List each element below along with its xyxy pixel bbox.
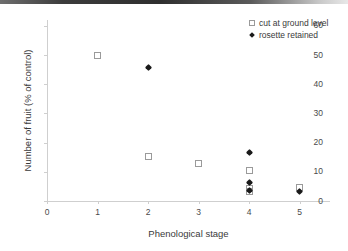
x-tick-label: 3 xyxy=(189,208,209,217)
y-tick-label: 20 xyxy=(314,138,323,147)
y-tick-label: 0 xyxy=(318,197,323,206)
x-tick-label: 4 xyxy=(239,208,259,217)
y-tick-mark xyxy=(44,143,47,144)
y-tick-mark xyxy=(44,26,47,27)
x-tick-mark xyxy=(47,201,48,204)
legend-marker-shape xyxy=(249,32,255,38)
y-axis-line xyxy=(47,20,48,201)
x-tick-label: 2 xyxy=(138,208,158,217)
data-point-filled-diamond xyxy=(145,64,152,71)
data-point-filled-diamond xyxy=(246,149,253,156)
y-tick-label: 50 xyxy=(314,51,323,60)
x-tick-label: 5 xyxy=(290,208,310,217)
x-tick-mark xyxy=(249,201,250,204)
plot-area: 0102030405060 012345 xyxy=(47,20,330,201)
y-tick-mark xyxy=(44,55,47,56)
x-tick-mark xyxy=(98,201,99,204)
chart-legend: cut at ground levelrosette retained xyxy=(246,17,328,41)
data-point-open-square xyxy=(145,153,152,160)
filled-diamond-icon xyxy=(246,33,258,37)
y-tick-label: 30 xyxy=(314,109,323,118)
y-tick-mark xyxy=(44,84,47,85)
scatter-chart-figure: Number of fruit (% of control) Phenologi… xyxy=(0,0,348,251)
x-tick-mark xyxy=(148,201,149,204)
legend-marker-shape xyxy=(249,20,255,26)
data-point-open-square xyxy=(246,167,253,174)
data-point-open-square xyxy=(195,160,202,167)
x-axis-line xyxy=(47,201,330,202)
legend-item-label: rosette retained xyxy=(258,30,318,40)
y-tick-mark xyxy=(44,172,47,173)
data-point-open-square xyxy=(94,52,101,59)
y-axis-title: Number of fruit (% of control) xyxy=(22,21,33,201)
x-tick-mark xyxy=(199,201,200,204)
open-square-icon xyxy=(246,20,258,26)
x-tick-mark xyxy=(300,201,301,204)
legend-item-label: cut at ground level xyxy=(258,18,328,28)
x-tick-label: 0 xyxy=(37,208,57,217)
x-axis-title: Phenological stage xyxy=(47,228,330,239)
y-tick-label: 40 xyxy=(314,80,323,89)
legend-item: rosette retained xyxy=(246,29,328,41)
y-tick-label: 10 xyxy=(314,167,323,176)
y-tick-mark xyxy=(44,113,47,114)
x-tick-label: 1 xyxy=(88,208,108,217)
legend-item: cut at ground level xyxy=(246,17,328,29)
